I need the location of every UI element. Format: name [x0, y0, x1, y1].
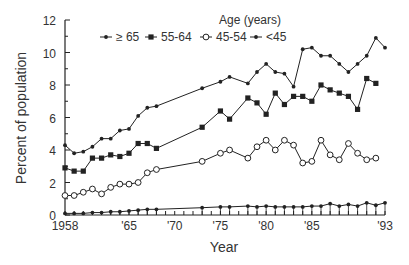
x-tick-label: '75 — [213, 219, 229, 233]
y-tick-label: 12 — [43, 14, 57, 28]
y-tick-label: 6 — [49, 112, 56, 126]
legend-label: 55-64 — [161, 30, 192, 44]
x-tick-label: '85 — [304, 219, 320, 233]
x-tick-label: 1958 — [52, 219, 79, 233]
x-tick-label: '65 — [121, 219, 137, 233]
legend-item: <45 — [250, 30, 287, 44]
data-series — [62, 36, 387, 215]
legend-label: <45 — [266, 30, 287, 44]
legend-item: 45-54 — [200, 30, 247, 44]
x-tick-label: '70 — [167, 219, 183, 233]
x-tick-label: '93 — [377, 219, 393, 233]
series-45-54 — [62, 137, 379, 198]
x-tick-label: '80 — [258, 219, 274, 233]
y-tick-label: 10 — [43, 47, 57, 61]
line-chart: 0246810121958'65'70'75'80'85'93 Age (yea… — [0, 0, 409, 265]
y-axis-label: Percent of population — [13, 52, 29, 184]
legend-item: ≥ 65 — [100, 30, 140, 44]
legend-item: 55-64 — [145, 30, 192, 44]
axes: 0246810121958'65'70'75'80'85'93 — [43, 14, 394, 233]
legend-title: Age (years) — [219, 13, 281, 27]
legend-label: ≥ 65 — [116, 30, 140, 44]
y-tick-label: 2 — [49, 177, 56, 191]
x-axis-label: Year — [210, 239, 239, 255]
legend-label: 45-54 — [216, 30, 247, 44]
series--45 — [63, 201, 387, 215]
series-55-64 — [62, 76, 378, 174]
y-tick-label: 8 — [49, 79, 56, 93]
y-tick-label: 4 — [49, 144, 56, 158]
legend: Age (years)≥ 6555-6445-54<45 — [100, 13, 287, 44]
